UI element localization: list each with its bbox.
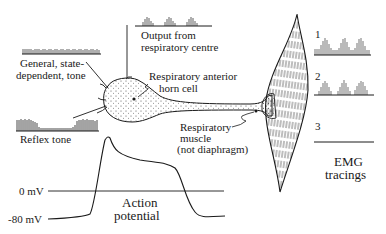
muscle-label-line3: (not diaphragm) bbox=[177, 144, 248, 155]
reflex-tone-pointer bbox=[73, 106, 106, 118]
emg-tracing-2 bbox=[314, 80, 374, 95]
anterior-horn-pointer-head bbox=[132, 97, 135, 100]
output-centre-trace bbox=[135, 17, 212, 26]
emg-tracing-1 bbox=[314, 38, 371, 55]
emg-index-1: 1 bbox=[315, 29, 321, 40]
output-centre-label-line1: Output from bbox=[141, 30, 196, 41]
minus80-mv-label: -80 mV bbox=[8, 214, 42, 225]
general-tone-pointer bbox=[86, 62, 108, 88]
output-centre-label-line2: respiratory centre bbox=[141, 42, 218, 53]
zero-mv-label: 0 mV bbox=[19, 186, 44, 197]
action-potential-label-line2: potential bbox=[114, 209, 160, 222]
general-tone-trace bbox=[22, 49, 101, 54]
emg-index-3: 3 bbox=[315, 121, 321, 132]
general-tone-label-line2: dependent, tone bbox=[16, 70, 86, 81]
muscle-pointer bbox=[232, 112, 254, 127]
general-tone-label-line1: General, state- bbox=[20, 58, 84, 69]
reflex-tone-label: Reflex tone bbox=[20, 134, 71, 145]
muscle-pointer-head bbox=[255, 110, 258, 113]
anterior-horn-label-line1: Respiratory anterior bbox=[149, 71, 237, 82]
respiratory-muscle bbox=[266, 14, 309, 192]
emg-index-2: 2 bbox=[315, 71, 321, 82]
reflex-tone-trace bbox=[16, 119, 99, 131]
neuromuscular-diagram: General, state- dependent, tone Output f… bbox=[0, 0, 386, 234]
anterior-horn-label-line2: horn cell bbox=[159, 83, 198, 94]
emg-label-line2: tracings bbox=[325, 168, 366, 181]
